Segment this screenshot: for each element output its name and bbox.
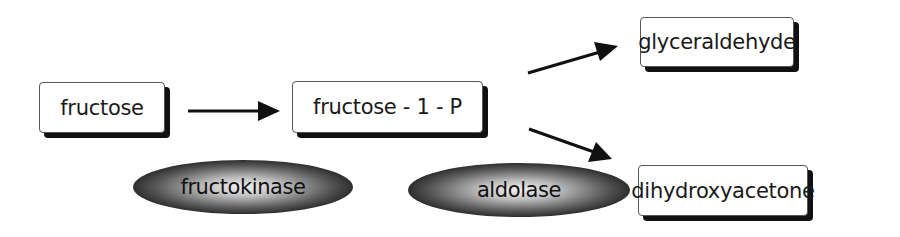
node-fructose-1-p: fructose - 1 - P [292,81,483,133]
arrow-f1p-to-glyceraldehyde [528,42,618,73]
arrow-f1p-to-dihydroxyacetone [529,129,612,162]
node-glyceraldehyde: glyceraldehyde [640,17,794,67]
enzyme-aldolase-label: aldolase [477,178,561,202]
node-fructose-label: fructose [60,96,143,120]
node-dihydroxyacetone: dihydroxyacetone [638,165,808,216]
node-fructose-1-p-label: fructose - 1 - P [313,95,462,119]
enzyme-fructokinase: fructokinase [133,160,353,214]
node-glyceraldehyde-label: glyceraldehyde [638,30,795,54]
node-fructose: fructose [39,82,165,133]
enzyme-aldolase: aldolase [408,163,630,217]
enzyme-fructokinase-label: fructokinase [180,175,305,199]
arrow-fructose-to-f1p [188,101,280,121]
node-dihydroxyacetone-label: dihydroxyacetone [631,179,814,203]
